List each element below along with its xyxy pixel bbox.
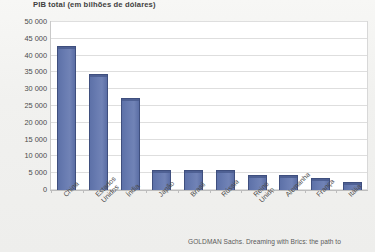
y-axis-tick-label: 30 000: [0, 84, 47, 93]
y-axis-tick-label: 35 000: [0, 67, 47, 76]
x-axis-tick-mark: [241, 190, 242, 193]
x-axis-tick-mark: [178, 190, 179, 193]
y-axis-tick-label: 50 000: [0, 17, 47, 26]
x-axis-tick-mark: [305, 190, 306, 193]
y-axis-tick-label: 40 000: [0, 51, 47, 60]
bar: [57, 46, 76, 190]
y-axis-tick-label: 45 000: [0, 34, 47, 43]
y-axis-tick-label: 15 000: [0, 135, 47, 144]
bar-fill: [57, 46, 76, 190]
y-axis-tick-labels: 50 00045 00040 00035 00030 00025 00020 0…: [0, 21, 47, 190]
y-axis-tick-label: 25 000: [0, 101, 47, 110]
source-annotation: GOLDMAN Sachs. Dreaming with Brics: the …: [188, 238, 341, 245]
x-axis-tick-mark: [51, 190, 52, 193]
x-axis-tick-mark: [336, 190, 337, 193]
y-axis-tick-label: 20 000: [0, 118, 47, 127]
y-axis-tick-label: 0: [0, 185, 47, 194]
x-axis-tick-mark: [83, 190, 84, 193]
y-axis-tick-label: 10 000: [0, 151, 47, 160]
x-axis-tick-mark: [114, 190, 115, 193]
x-axis-tick-labels: ChinaEstados UnidosÍndiaJapãoBrasilRússi…: [51, 191, 368, 237]
x-axis-tick-mark: [210, 190, 211, 193]
x-axis-tick-mark: [146, 190, 147, 193]
chart-title: PIB total (em bilhões de dólares): [33, 0, 156, 9]
x-axis-tick-mark: [273, 190, 274, 193]
y-axis-tick-label: 5 000: [0, 168, 47, 177]
